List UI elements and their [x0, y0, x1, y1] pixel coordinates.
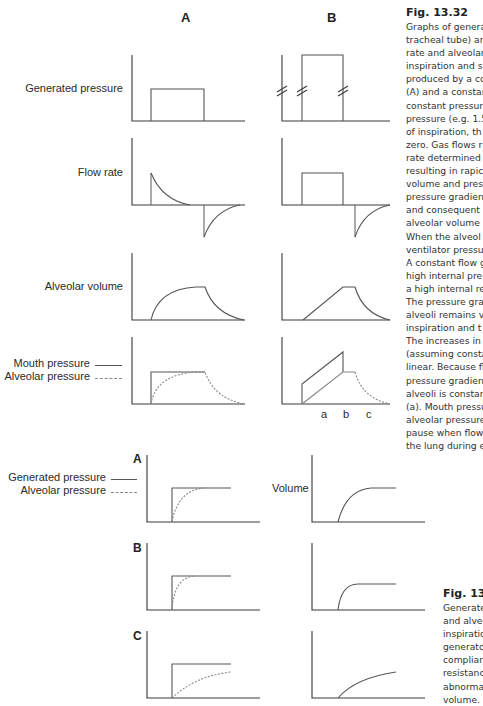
caption-line: resistance	[443, 666, 483, 679]
graph-a-mouth-alveolar-pressure	[132, 337, 245, 404]
caption-line: resulting in rapic	[406, 164, 483, 177]
caption-line: pressure gradien	[406, 190, 483, 203]
caption-line: and consequent	[406, 203, 483, 216]
caption-line: (assuming consta	[406, 347, 483, 360]
caption-fig-13-33: Fig. 13.3 Generate and alvec inspiratio …	[443, 587, 483, 706]
caption-line: (a). Mouth pressu	[406, 400, 483, 413]
caption-line: of inspiration, th	[406, 125, 483, 138]
graph-b-alveolar-volume	[282, 253, 390, 320]
graph-bottom-a-pressure	[147, 455, 260, 522]
caption-line: Generate	[443, 601, 483, 614]
graph-a-generated-pressure	[132, 55, 245, 121]
caption-line: high internal pre	[406, 269, 483, 282]
caption-line: produced by a co	[406, 72, 483, 85]
caption-line: The increases in a	[406, 334, 483, 347]
caption-line: inspiration and s	[406, 59, 483, 72]
caption-title: Fig. 13.3	[443, 587, 483, 601]
caption-line: linear. Because fl	[406, 360, 483, 373]
caption-line: pressure (e.g. 1.5	[406, 112, 483, 125]
graph-a-alveolar-volume	[132, 253, 245, 320]
caption-line: The pressure gra	[406, 295, 483, 308]
caption-title: Fig. 13.32	[406, 6, 483, 20]
graph-b-generated-pressure	[277, 55, 390, 121]
caption-line: alveoli remains v	[406, 308, 483, 321]
caption-line: constant pressur	[406, 99, 483, 112]
graph-a-flow-rate	[132, 138, 245, 237]
caption-line: alveoli is constan	[406, 387, 483, 400]
caption-line: complian	[443, 653, 483, 666]
caption-line: When the alveol	[406, 230, 483, 243]
caption-fig-13-32: Fig. 13.32 Graphs of genera tracheal tub…	[406, 6, 483, 452]
caption-line: abnorma	[443, 680, 483, 693]
caption-line: (A) and a constan	[406, 85, 483, 98]
caption-line: rate and alveolar	[406, 46, 483, 59]
graph-bottom-b-pressure	[147, 543, 260, 610]
graph-bottom-c-volume	[312, 631, 425, 698]
graph-bottom-b-volume	[312, 543, 425, 610]
graph-bottom-a-volume	[312, 455, 425, 522]
caption-line: tracheal tube) an	[406, 33, 483, 46]
caption-line: generato	[443, 640, 483, 653]
caption-line: zero. Gas flows r	[406, 138, 483, 151]
caption-line: alveolar volume	[406, 216, 483, 229]
caption-line: pressure gradien	[406, 374, 483, 387]
caption-line: inspiratio	[443, 627, 483, 640]
caption-line: ventilator pressu	[406, 243, 483, 256]
caption-line: volume and pres	[406, 177, 483, 190]
caption-line: Graphs of genera	[406, 20, 483, 33]
graph-b-mouth-alveolar-pressure	[282, 337, 390, 404]
caption-line: inspiration and t	[406, 321, 483, 334]
caption-line: the lung during e	[406, 439, 483, 452]
caption-line: rate determined	[406, 151, 483, 164]
graph-b-flow-rate	[282, 138, 390, 237]
caption-line: and alvec	[443, 614, 483, 627]
caption-line: a high internal re	[406, 282, 483, 295]
caption-line: volume.	[443, 693, 483, 706]
caption-line: A constant flow g	[406, 256, 483, 269]
caption-line: pause when flow	[406, 426, 483, 439]
graph-bottom-c-pressure	[147, 631, 260, 698]
caption-line: alveolar pressure	[406, 413, 483, 426]
